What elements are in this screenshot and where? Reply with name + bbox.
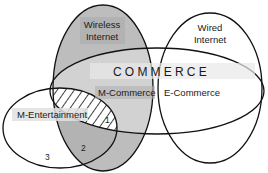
wired-internet-label-line2: Internet [194, 34, 227, 45]
region-1-label: 1 [105, 115, 110, 125]
commerce-venn-diagram: Wireless Internet Wired Internet COMMERC… [0, 0, 268, 173]
region-3-label: 3 [45, 152, 50, 162]
e-commerce-label: E-Commerce [164, 87, 220, 98]
wireless-internet-label-line2: Internet [86, 31, 119, 42]
wired-internet-label-line1: Wired [198, 22, 223, 33]
commerce-title: COMMERCE [113, 65, 210, 79]
wireless-internet-label-line1: Wireless [84, 19, 121, 30]
m-entertainment-label: M-Entertainment [17, 109, 88, 120]
region-2-label: 2 [81, 143, 86, 153]
m-commerce-label: M-Commerce [98, 87, 156, 98]
